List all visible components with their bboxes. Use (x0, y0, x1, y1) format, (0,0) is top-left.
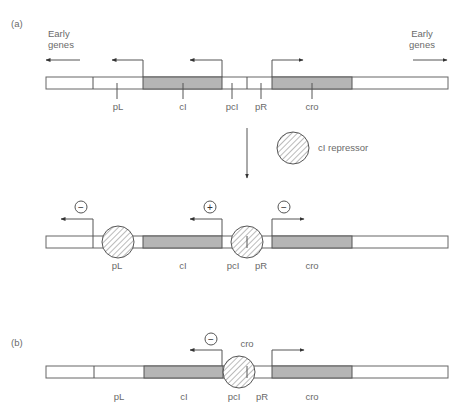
svg-text:−: − (78, 202, 84, 213)
dna-top (46, 77, 448, 99)
pcI-arrow (190, 60, 222, 77)
cI-repressor-icon (277, 132, 309, 164)
label-pL-top: pL (113, 101, 124, 112)
svg-text:−: − (281, 202, 287, 213)
sign-minus-pR: − (278, 201, 290, 213)
sign-minus-pL: − (75, 201, 87, 213)
early-genes-right-line1: Early (411, 28, 433, 39)
svg-text:+: + (207, 202, 213, 213)
gene-cI-bound (143, 236, 222, 248)
label-pR-bound: pR (255, 260, 267, 271)
sign-minus-pcI-b: − (205, 333, 217, 345)
label-pcI-top: pcI (226, 101, 239, 112)
cI-repressor-at-pL (102, 226, 134, 258)
cro-protein-at-pcI-pR (223, 356, 255, 388)
lambda-regulation-diagram: (a) Early genes Early genes pL cI pcI pR… (0, 0, 467, 418)
early-genes-left-line2: genes (48, 39, 74, 50)
label-pL-b: pL (114, 391, 125, 402)
label-pL-bound: pL (112, 260, 123, 271)
panel-b-label: (b) (11, 337, 23, 348)
svg-text:−: − (208, 334, 214, 345)
gene-cI-b (144, 366, 223, 378)
early-genes-left-line1: Early (48, 28, 70, 39)
label-pR-b: pR (256, 391, 268, 402)
label-pcI-b: pcI (228, 391, 241, 402)
pR-arrow-bound (272, 219, 304, 236)
label-pcI-bound: pcI (227, 260, 240, 271)
cro-protein-label: cro (240, 338, 253, 349)
label-cro-top: cro (305, 101, 318, 112)
pcI-arrow-b (190, 350, 222, 366)
pR-arrow (272, 60, 303, 77)
label-cro-b: cro (305, 391, 318, 402)
arrows-top (46, 60, 447, 77)
panel-a-label: (a) (11, 18, 23, 29)
pR-arrow-b (272, 350, 304, 366)
sign-plus-pcI: + (204, 201, 216, 213)
gene-cro-b (272, 366, 352, 378)
early-genes-right-line2: genes (409, 39, 435, 50)
label-cI-b: cI (180, 391, 187, 402)
label-cro-bound: cro (305, 260, 318, 271)
pcI-arrow-bound (190, 219, 222, 236)
cI-repressor-label: cI repressor (318, 142, 368, 153)
pL-arrow (112, 60, 143, 77)
pL-arrow-bound (61, 219, 93, 236)
gene-cro-bound (272, 236, 352, 248)
label-cI-top: cI (179, 101, 186, 112)
label-pR-top: pR (255, 101, 267, 112)
label-cI-bound: cI (179, 260, 186, 271)
